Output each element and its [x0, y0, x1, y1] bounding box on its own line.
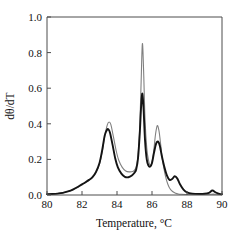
tick-layer: 8082848688900.00.20.40.60.81.0 — [28, 11, 228, 210]
y-tick-label: 0.4 — [28, 118, 42, 130]
series-layer — [47, 44, 222, 195]
x-tick-label: 84 — [112, 198, 124, 210]
x-axis-title: Temperature, °C — [96, 217, 172, 230]
x-tick-label: 82 — [77, 198, 88, 210]
series-black-curve — [47, 94, 222, 195]
chart-figure: 8082848688900.00.20.40.60.81.0 Temperatu… — [0, 0, 235, 238]
x-tick-label: 88 — [182, 198, 194, 210]
y-tick-label: 0.8 — [28, 47, 42, 59]
plot-frame — [47, 17, 222, 195]
axes-layer — [47, 17, 222, 195]
x-tick-label: 90 — [217, 198, 229, 210]
y-tick-label: 0.2 — [28, 153, 42, 165]
melting-curve-chart: 8082848688900.00.20.40.60.81.0 Temperatu… — [0, 0, 235, 238]
y-tick-label: 1.0 — [28, 11, 42, 23]
x-tick-label: 80 — [42, 198, 54, 210]
y-tick-label: 0.0 — [28, 189, 42, 201]
y-tick-label: 0.6 — [28, 82, 42, 94]
x-tick-label: 86 — [147, 198, 159, 210]
y-axis-title: dθ/dT — [4, 92, 16, 119]
